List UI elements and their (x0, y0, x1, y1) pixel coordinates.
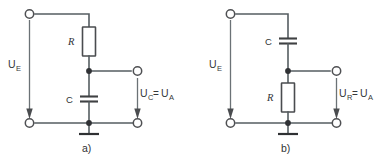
wire-a-top-input (35, 14, 89, 27)
input-voltage-label-a: U E (8, 58, 21, 73)
resistor-body-a (83, 27, 96, 56)
output-left-symbol-b: U (339, 87, 347, 99)
output-voltage-arrow-b (333, 109, 339, 120)
terminal-b-output-bottom[interactable] (332, 119, 340, 127)
input-voltage-subscript-a: E (16, 64, 21, 73)
panel-label-b: b) (281, 142, 290, 154)
terminal-a-output-top[interactable] (133, 67, 141, 75)
junction-dot-b-mid (285, 68, 291, 74)
output-right-symbol-a: U (161, 87, 169, 99)
panel-label-a: a) (82, 142, 91, 154)
output-right-symbol-b: U (360, 87, 368, 99)
terminal-b-output-top[interactable] (332, 67, 340, 75)
output-right-subscript-b: A (368, 93, 373, 102)
output-voltage-arrow-a (134, 109, 140, 120)
output-voltage-label-b: U R = U A (339, 87, 373, 102)
capacitor-label-b: C (265, 36, 272, 47)
input-voltage-label-b: U E (209, 58, 222, 73)
resistor-label-b: R (266, 92, 274, 103)
wire-b-top-input (236, 14, 288, 38)
output-relation-b: = (352, 88, 358, 99)
output-relation-a: = (153, 88, 159, 99)
circuit-b: U E C R U R = U A b) (209, 10, 373, 154)
junction-dot-a-mid (86, 68, 92, 74)
input-voltage-symbol-a: U (8, 58, 16, 70)
input-voltage-subscript-b: E (217, 64, 222, 73)
terminal-b-input-top[interactable] (226, 10, 234, 18)
terminal-a-output-bottom[interactable] (133, 119, 141, 127)
circuit-a: U E R C U C = U A a) (8, 10, 174, 154)
terminal-a-input-bottom[interactable] (25, 119, 33, 127)
input-voltage-arrow-b (227, 109, 233, 120)
input-voltage-symbol-b: U (209, 58, 217, 70)
junction-dot-b-rail (285, 120, 291, 126)
capacitor-label-a: C (66, 94, 73, 105)
output-right-subscript-a: A (169, 93, 174, 102)
output-voltage-label-a: U C = U A (140, 87, 174, 102)
resistor-label-a: R (67, 36, 75, 47)
junction-dot-a-rail (86, 120, 92, 126)
resistor-body-b (282, 83, 295, 112)
circuit-diagram-canvas: U E R C U C = U A a) (0, 0, 377, 158)
terminal-a-input-top[interactable] (25, 10, 33, 18)
output-left-symbol-a: U (140, 87, 148, 99)
circuit-figure: U E R C U C = U A a) (0, 0, 377, 158)
terminal-b-input-bottom[interactable] (226, 119, 234, 127)
input-voltage-arrow-a (26, 109, 32, 120)
